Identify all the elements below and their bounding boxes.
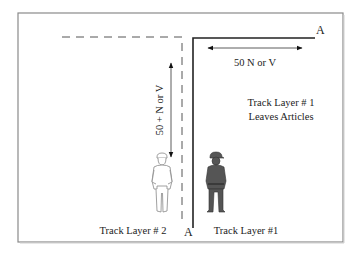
point-label-a-bottom: A <box>184 225 193 239</box>
horizontal-dimension-label: 50 N or V <box>234 57 277 68</box>
note-line-2: Leaves Articles <box>248 111 313 122</box>
person-filled-icon <box>206 152 226 212</box>
frame-border <box>18 13 343 242</box>
vertical-dimension-label: 50 + N or V <box>154 84 165 135</box>
person-outline-icon <box>152 153 172 212</box>
track-layer-1-label: Track Layer #1 <box>214 225 278 236</box>
track-layer-diagram: A A 50 N or V 50 + N or V Track Layer # … <box>0 0 362 255</box>
point-label-a-top: A <box>316 23 325 37</box>
track-layer-2-label: Track Layer # 2 <box>100 225 167 236</box>
note-line-1: Track Layer # 1 <box>248 97 315 108</box>
